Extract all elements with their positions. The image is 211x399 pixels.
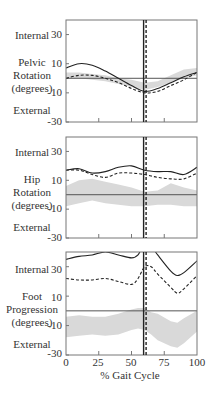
panel2-ytick-30: 30 xyxy=(40,145,62,157)
xtick-100: 100 xyxy=(185,356,209,368)
panel-2-plot xyxy=(66,166,197,207)
panel2-ylabel-2: Rotation xyxy=(2,186,62,199)
panel-3-plot xyxy=(66,243,197,348)
panel1-ytick-10: 10 xyxy=(40,57,62,69)
panel1-ytick-m10: -10 xyxy=(40,86,62,98)
panel2-ytick-10: 10 xyxy=(40,174,62,186)
panel-1-frame xyxy=(66,20,197,122)
xaxis-label: % Gait Cycle xyxy=(90,369,170,382)
xtick-75: 75 xyxy=(152,356,176,368)
panel3-ylabel-2: Progression xyxy=(0,303,64,316)
xtick-25: 25 xyxy=(86,356,110,368)
panel3-ytick-m10: -10 xyxy=(40,319,62,331)
xtick-0: 0 xyxy=(54,356,78,368)
panel-1-plot xyxy=(66,64,197,93)
panel3-ytick-30: 30 xyxy=(40,263,62,275)
panel2-ytick-m30: -30 xyxy=(40,231,62,243)
panel1-ytick-30: 30 xyxy=(40,28,62,40)
panel1-ylabel-2: Rotation xyxy=(2,69,62,82)
panel3-ytick-10: 10 xyxy=(40,291,62,303)
xtick-50: 50 xyxy=(119,356,143,368)
panel1-ytick-m30: -30 xyxy=(40,115,62,127)
panel2-ytick-m10: -10 xyxy=(40,202,62,214)
